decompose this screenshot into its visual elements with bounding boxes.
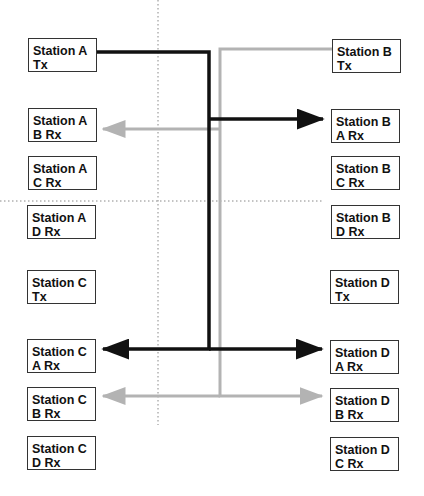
box-label: Station D [335, 443, 398, 457]
box-label: Station D [335, 394, 398, 408]
station-b-c-rx-box: Station B C Rx [331, 156, 400, 190]
box-label: Station C [32, 276, 95, 290]
box-sublabel: A Rx [336, 129, 399, 143]
station-d-a-rx-box: Station D A Rx [330, 340, 399, 374]
station-d-c-rx-box: Station D C Rx [330, 437, 399, 471]
box-sublabel: D Rx [32, 225, 95, 239]
box-sublabel: D Rx [336, 225, 399, 239]
box-sublabel: B Rx [335, 408, 398, 422]
box-label: Station C [32, 393, 95, 407]
station-c-b-rx-box: Station C B Rx [27, 387, 96, 421]
box-label: Station B [336, 211, 399, 225]
box-label: Station D [335, 276, 398, 290]
box-sublabel: B Rx [33, 128, 96, 142]
box-sublabel: D Rx [32, 456, 95, 470]
station-b-tx-box: Station B Tx [332, 39, 401, 73]
box-sublabel: A Rx [32, 359, 95, 373]
box-sublabel: C Rx [33, 176, 96, 190]
box-label: Station C [32, 345, 95, 359]
box-sublabel: B Rx [32, 407, 95, 421]
station-d-tx-box: Station D Tx [330, 270, 399, 304]
box-sublabel: Tx [32, 290, 95, 304]
box-sublabel: Tx [337, 59, 400, 73]
station-a-d-rx-box: Station A D Rx [27, 205, 96, 239]
box-label: Station A [33, 44, 96, 58]
box-sublabel: C Rx [335, 457, 398, 471]
station-c-tx-box: Station C Tx [27, 270, 96, 304]
box-label: Station D [335, 346, 398, 360]
station-c-d-rx-box: Station C D Rx [27, 436, 96, 470]
box-label: Station A [32, 211, 95, 225]
box-sublabel: C Rx [336, 176, 399, 190]
box-sublabel: Tx [335, 290, 398, 304]
station-c-a-rx-box: Station C A Rx [27, 339, 96, 373]
station-d-b-rx-box: Station D B Rx [330, 388, 399, 422]
station-b-d-rx-box: Station B D Rx [331, 205, 400, 239]
box-sublabel: A Rx [335, 360, 398, 374]
box-label: Station A [33, 162, 96, 176]
station-b-a-rx-box: Station B A Rx [331, 109, 400, 143]
station-b-signal-path [103, 49, 332, 396]
box-label: Station B [336, 162, 399, 176]
box-sublabel: Tx [33, 58, 96, 72]
station-a-tx-box: Station A Tx [28, 38, 97, 72]
box-label: Station A [33, 114, 96, 128]
box-label: Station B [337, 45, 400, 59]
station-a-b-rx-box: Station A B Rx [28, 108, 97, 142]
station-a-c-rx-box: Station A C Rx [28, 156, 97, 190]
box-label: Station B [336, 115, 399, 129]
broadcast-diagram: Station A Tx Station A B Rx Station A C … [0, 0, 424, 496]
box-label: Station C [32, 442, 95, 456]
